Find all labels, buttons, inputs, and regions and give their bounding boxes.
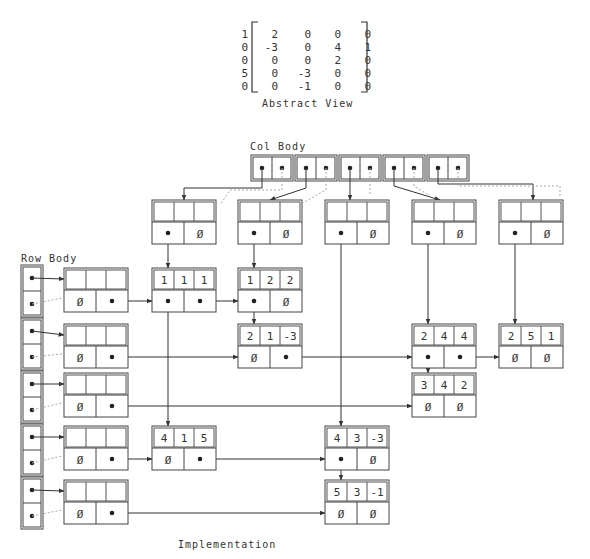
node-value: -3 [283,330,296,343]
node-value: 2 [287,274,294,287]
matrix-node: 415Ø [152,426,216,470]
node-value: 3 [354,486,361,499]
null-icon: Ø [512,352,519,365]
col-head-node: Ø [238,200,302,244]
matrix-cell: 0 [341,80,371,93]
node-value: 4 [334,432,341,445]
matrix-cell: 0 [281,54,311,67]
row-head-node: Ø [64,268,128,312]
pointer-dot-icon [339,231,344,236]
matrix-nodes: ØØØØØØØØØØ111122Ø21-3Ø244251ØØ342ØØ415Ø4… [64,200,563,524]
row-head-node: Ø [64,324,128,368]
matrix-node: 21-3Ø [238,324,302,368]
pointer-dot-icon [284,355,289,360]
node-value: 5 [334,486,341,499]
null-icon: Ø [370,508,377,521]
matrix-cell: 0 [311,28,341,41]
null-icon: Ø [77,508,84,521]
null-icon: Ø [544,228,551,241]
null-icon: Ø [338,508,345,521]
row-head-node: Ø [64,480,128,524]
null-icon: Ø [283,296,290,309]
node-value: 1 [201,274,208,287]
matrix-cell: 0 [311,80,341,93]
null-icon: Ø [77,401,84,414]
abstract-view-label: Abstract View [262,98,353,109]
null-icon: Ø [77,454,84,467]
node-value: 4 [161,432,168,445]
node-value: 1 [161,274,168,287]
null-icon: Ø [457,401,464,414]
matrix-node: 342ØØ [412,373,476,417]
null-icon: Ø [77,352,84,365]
node-value: 4 [461,330,468,343]
row-head-node: Ø [64,426,128,470]
pointer-dot-icon [339,457,344,462]
node-value: 2 [267,274,274,287]
pointer-dot-icon [110,457,115,462]
row-body-array [21,265,43,529]
matrix-cell: 0 [281,41,311,54]
pointer-dot-icon [426,231,431,236]
null-icon: Ø [165,454,172,467]
matrix-node: 53-1ØØ [325,480,389,524]
node-value: 2 [247,330,254,343]
matrix-cell: 0 [281,28,311,41]
matrix-node: 251ØØ [499,324,563,368]
matrix-node: 244 [412,324,476,368]
null-icon: Ø [544,352,551,365]
node-value: 5 [528,330,535,343]
node-value: -3 [370,432,383,445]
col-head-node: Ø [499,200,563,244]
null-icon: Ø [457,228,464,241]
matrix-cell: 0 [218,41,248,54]
row-head-node: Ø [64,373,128,417]
pointer-dot-icon [252,231,257,236]
matrix-cell: 0 [248,80,278,93]
col-head-node: Ø [412,200,476,244]
pointer-dot-icon [458,355,463,360]
matrix-node: 43-3Ø [325,426,389,470]
matrix-cell: 1 [218,28,248,41]
matrix-cell: 4 [311,41,341,54]
matrix-cell: 0 [311,67,341,80]
null-icon: Ø [370,228,377,241]
pointer-dot-icon [252,299,257,304]
node-value: 4 [441,379,448,392]
matrix-cell: 2 [311,54,341,67]
node-value: 1 [267,330,274,343]
row-body-label: Row Body [21,253,77,264]
matrix-cell: 1 [341,41,371,54]
null-icon: Ø [425,401,432,414]
matrix-cell: -1 [281,80,311,93]
pointer-dot-icon [110,299,115,304]
null-icon: Ø [283,228,290,241]
col-body-label: Col Body [250,141,306,152]
matrix-cell: 0 [218,54,248,67]
null-icon: Ø [370,454,377,467]
node-value: 1 [181,432,188,445]
pointer-dot-icon [513,231,518,236]
pointer-dot-icon [166,231,171,236]
matrix-cell: 5 [218,67,248,80]
node-value: 1 [548,330,555,343]
matrix-node: 122Ø [238,268,302,312]
pointer-dot-icon [110,511,115,516]
matrix-cell: 0 [341,28,371,41]
col-head-node: Ø [325,200,389,244]
pointer-dot-icon [110,355,115,360]
col-head-node: Ø [152,200,216,244]
null-icon: Ø [77,296,84,309]
matrix-cell: 0 [248,67,278,80]
matrix-cell: 0 [248,54,278,67]
node-value: 4 [441,330,448,343]
col-body-array [251,155,469,181]
matrix-cell: 0 [341,54,371,67]
null-icon: Ø [251,352,258,365]
node-value: 3 [354,432,361,445]
node-value: 1 [181,274,188,287]
matrix-cell: 2 [248,28,278,41]
implementation-label: Implementation [178,539,276,550]
pointer-dot-icon [426,355,431,360]
node-value: -1 [370,486,383,499]
